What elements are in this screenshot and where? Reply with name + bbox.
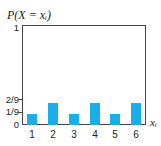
plot-frame — [22, 25, 146, 125]
bar-1 — [27, 114, 37, 125]
ytick-1-9: 1/9 — [1, 107, 19, 117]
y-axis-label: P(X = xᵢ) — [7, 8, 51, 23]
xtick-1: 1 — [26, 129, 38, 140]
bar-2 — [48, 103, 58, 125]
xtick-6: 6 — [130, 129, 142, 140]
x-axis-label: xᵢ — [150, 116, 157, 128]
bar-4 — [90, 103, 100, 125]
bar-6 — [131, 103, 141, 125]
bar-3 — [69, 114, 79, 125]
tickmark-2-9 — [18, 99, 22, 100]
ytick-0: 0 — [1, 120, 19, 130]
xtick-3: 3 — [68, 129, 80, 140]
tickmark-1-9 — [18, 112, 22, 113]
ytick-1: 1 — [1, 23, 19, 33]
ytick-2-9: 2/9 — [1, 95, 19, 105]
xtick-5: 5 — [109, 129, 121, 140]
xtick-2: 2 — [47, 129, 59, 140]
xtick-4: 4 — [89, 129, 101, 140]
bar-5 — [110, 114, 120, 125]
